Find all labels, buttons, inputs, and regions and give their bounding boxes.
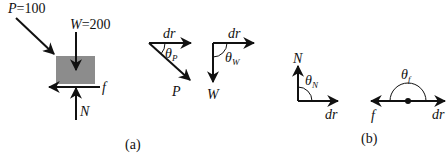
theta-P-label: θP [165, 46, 178, 63]
dr-label: dr [325, 107, 338, 122]
W-label: W=200 [70, 17, 111, 32]
theta-W-label: θW [225, 50, 241, 67]
free-body-diagram: P=100 W=200 f N [7, 1, 111, 120]
theta-f-label: θf [401, 67, 412, 84]
P-force-label: P [171, 84, 181, 99]
vector-diagram-P: dr θP P [149, 26, 191, 99]
force-P-arrow [16, 18, 54, 54]
diagram-canvas: P=100 W=200 f N dr θP P dr θW W (a) N θN… [0, 0, 448, 159]
dr-label: dr [163, 26, 176, 41]
dr-label: dr [228, 26, 241, 41]
N-force-label: N [292, 51, 303, 66]
f-force-label: f [371, 108, 377, 123]
W-force-label: W [207, 87, 220, 102]
angle-arc [298, 87, 312, 101]
f-label: f [102, 80, 108, 95]
P-label: P=100 [7, 1, 45, 16]
vector-diagram-N: N θN dr [292, 51, 338, 122]
dr-label: dr [432, 107, 445, 122]
N-label: N [79, 104, 90, 119]
vector-diagram-f: θf f dr [371, 67, 445, 123]
caption-b: (b) [361, 131, 378, 147]
theta-N-label: θN [305, 73, 319, 90]
caption-a: (a) [125, 137, 141, 153]
origin-dot [405, 98, 411, 104]
vector-diagram-W: dr θW W [207, 26, 254, 102]
